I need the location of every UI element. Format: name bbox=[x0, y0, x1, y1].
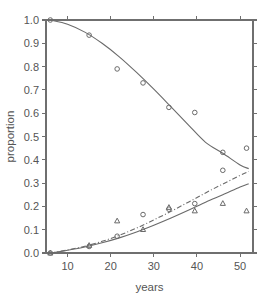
marker-lower-observed-triangles-5 bbox=[192, 208, 197, 213]
plot-frame bbox=[46, 20, 253, 253]
x-tick-label-30: 30 bbox=[148, 260, 160, 272]
plot-series bbox=[48, 18, 249, 256]
x-tick-label-50: 50 bbox=[234, 260, 246, 272]
marker-lower-observed-circles-5 bbox=[192, 201, 197, 206]
marker-lower-observed-circles-3 bbox=[141, 212, 146, 217]
y-tick-label-0.2: 0.2 bbox=[24, 200, 39, 212]
marker-upper-observed-circles-3 bbox=[141, 81, 146, 86]
marker-lower-observed-triangles-7 bbox=[244, 208, 249, 213]
marker-upper-observed-circles-7 bbox=[244, 146, 249, 151]
y-tick-label-0.7: 0.7 bbox=[24, 84, 39, 96]
x-tick-label-40: 40 bbox=[191, 260, 203, 272]
x-tick-label-20: 20 bbox=[105, 260, 117, 272]
series-line-upper-fitted-curve bbox=[50, 20, 248, 169]
marker-lower-observed-triangles-2 bbox=[115, 218, 120, 223]
x-tick-label-10: 10 bbox=[61, 260, 73, 272]
plot-labels: 0.00.10.20.30.40.50.60.70.80.91.01020304… bbox=[4, 14, 246, 293]
y-tick-label-0.4: 0.4 bbox=[24, 154, 39, 166]
scatter-plot: 0.00.10.20.30.40.50.60.70.80.91.01020304… bbox=[0, 0, 278, 301]
y-tick-label-1.0: 1.0 bbox=[24, 14, 39, 26]
y-tick-label-0.6: 0.6 bbox=[24, 107, 39, 119]
series-line-lower-fitted-curve-dashdot bbox=[50, 171, 248, 253]
x-axis-title: years bbox=[135, 281, 163, 293]
y-tick-label-0.1: 0.1 bbox=[24, 224, 39, 236]
y-tick-label-0.0: 0.0 bbox=[24, 247, 39, 259]
marker-upper-observed-circles-2 bbox=[115, 67, 120, 72]
marker-lower-observed-circles-6 bbox=[221, 168, 226, 173]
y-tick-label-0.5: 0.5 bbox=[24, 131, 39, 143]
y-axis-title: proportion bbox=[4, 111, 16, 163]
plot-axes bbox=[42, 16, 257, 257]
y-tick-label-0.8: 0.8 bbox=[24, 61, 39, 73]
y-tick-label-0.3: 0.3 bbox=[24, 177, 39, 189]
y-tick-label-0.9: 0.9 bbox=[24, 37, 39, 49]
marker-lower-observed-triangles-6 bbox=[220, 201, 225, 206]
chart-container: 0.00.10.20.30.40.50.60.70.80.91.01020304… bbox=[0, 0, 278, 301]
series-line-lower-fitted-curve-solid bbox=[50, 184, 248, 253]
marker-upper-observed-circles-5 bbox=[192, 110, 197, 115]
